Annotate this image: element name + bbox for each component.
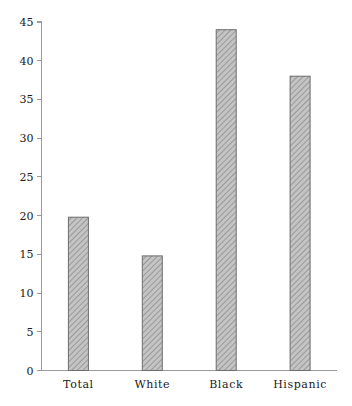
x-axis-category-label: Black	[209, 378, 243, 391]
x-axis-category-label: Total	[63, 378, 94, 391]
y-tick-label: 15	[20, 248, 34, 261]
y-tick-label: 45	[20, 16, 34, 29]
bar	[142, 256, 162, 371]
y-tick-label: 25	[20, 171, 34, 184]
y-tick-label: 5	[27, 326, 34, 339]
y-tick-label: 0	[27, 365, 34, 378]
bar	[290, 76, 310, 370]
chart-canvas: 051015202530354045 TotalWhiteBlackHispan…	[0, 0, 352, 406]
bar	[216, 30, 236, 371]
bar-chart: 051015202530354045 TotalWhiteBlackHispan…	[0, 0, 352, 406]
bar	[68, 217, 88, 370]
y-tick-label: 20	[20, 210, 34, 223]
y-tick-label: 10	[20, 287, 34, 300]
y-tick-label: 35	[20, 93, 34, 106]
x-axis-category-label: White	[134, 378, 170, 391]
x-axis-category-label: Hispanic	[273, 378, 327, 391]
y-tick-label: 30	[20, 132, 34, 145]
y-tick-label: 40	[20, 55, 34, 68]
